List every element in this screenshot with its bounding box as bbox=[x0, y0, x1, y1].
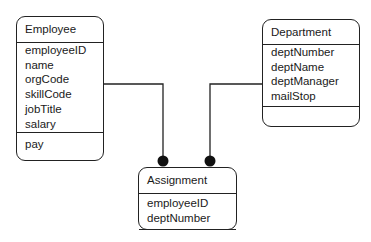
department-attributes: deptNumber deptName deptManager mailStop bbox=[263, 44, 359, 107]
attribute: employeeID bbox=[147, 196, 236, 211]
assignment-class-name: Assignment bbox=[139, 168, 236, 194]
attribute: deptNumber bbox=[271, 45, 359, 60]
employee-assignment-association bbox=[103, 84, 163, 161]
attribute: deptManager bbox=[271, 74, 359, 89]
attribute: skillCode bbox=[25, 87, 103, 102]
attribute: name bbox=[25, 58, 103, 73]
assignment-class: Assignment employeeID deptNumber bbox=[138, 167, 237, 230]
employee-assignment-dot bbox=[158, 156, 169, 167]
attribute: employeeID bbox=[25, 43, 103, 58]
attribute: orgCode bbox=[25, 72, 103, 87]
employee-class-name: Employee bbox=[17, 17, 103, 43]
class-name-text: Employee bbox=[25, 23, 76, 35]
operation: pay bbox=[25, 137, 103, 151]
department-assignment-dot bbox=[205, 156, 216, 167]
department-assignment-association bbox=[210, 84, 262, 161]
employee-class: Employee employeeID name orgCode skillCo… bbox=[16, 16, 104, 161]
attribute: jobTitle bbox=[25, 102, 103, 117]
employee-operations: pay bbox=[17, 134, 103, 160]
assignment-attributes: employeeID deptNumber bbox=[139, 193, 236, 230]
attribute: salary bbox=[25, 117, 103, 132]
class-name-text: Assignment bbox=[147, 174, 207, 186]
attribute: deptNumber bbox=[147, 211, 236, 226]
class-name-text: Department bbox=[271, 26, 331, 38]
department-class: Department deptNumber deptName deptManag… bbox=[262, 19, 360, 127]
attribute: mailStop bbox=[271, 89, 359, 104]
employee-attributes: employeeID name orgCode skillCode jobTit… bbox=[17, 42, 103, 133]
department-operations bbox=[263, 107, 359, 126]
department-class-name: Department bbox=[263, 20, 359, 45]
attribute: deptName bbox=[271, 60, 359, 75]
